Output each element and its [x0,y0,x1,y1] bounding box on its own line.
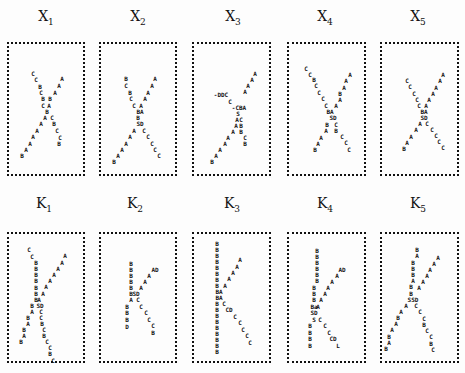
panel-title-k3: K3 [224,195,240,214]
stroke-glyph: C [51,358,55,364]
panel-subscript: 1 [46,204,52,214]
stroke-glyph: A [39,121,43,127]
stroke-glyph: B [210,159,214,165]
stroke-glyph: A [43,115,47,121]
stroke-glyph: B [384,346,388,352]
stroke-glyph: A [324,128,328,134]
stroke-glyph: A [418,121,422,127]
stroke-glyph: L [336,343,340,349]
panel-letter: K [36,195,46,211]
stroke-glyph: C [139,304,143,310]
panel-subscript: 4 [327,204,333,214]
stroke-glyph: A [431,91,435,97]
stroke-glyph: B [19,339,23,345]
stroke-glyph: A [28,141,32,147]
stroke-glyph: A [231,270,235,276]
stroke-glyph: A [52,272,56,278]
stroke-glyph: A [231,129,235,135]
panel-title-k2: K2 [127,195,143,214]
panel-letter: X [410,8,420,24]
stroke-glyph: A [37,297,41,303]
stroke-glyph: A [139,103,143,109]
stroke-glyph: A [243,89,247,95]
stroke-glyph: A [41,291,45,297]
stroke-glyph: A [335,273,339,279]
stroke-glyph: A [26,321,30,327]
stroke-glyph: A [223,283,227,289]
stroke-glyph: A [218,147,222,153]
panel-title-k1: K1 [36,195,52,214]
stroke-glyph: C [248,340,252,346]
stroke-glyph: A [394,321,398,327]
stroke-glyph: A [404,303,408,309]
panel-subscript: 2 [140,17,146,27]
panel-subscript: 2 [137,204,143,214]
stroke-glyph: A [421,279,425,285]
stroke-glyph: A [415,253,419,259]
stroke-glyph: A [438,78,442,84]
stroke-glyph: A [150,83,154,89]
stroke-glyph: A [56,266,60,272]
stroke-glyph: C [132,103,136,109]
stroke-glyph: A [342,85,346,91]
stroke-glyph: A [132,128,136,134]
panel-title-x4: X4 [317,8,333,27]
panel-subscript: 5 [420,17,426,27]
panel-letter: X [225,8,235,24]
stroke-glyph: A [414,127,418,133]
stroke-glyph: A [30,309,34,315]
stroke-glyph: B [57,141,61,147]
stroke-glyph: A [250,77,254,83]
stroke-glyph: A [128,134,132,140]
stroke-glyph: A [60,260,64,266]
panel-letter: X [317,8,327,24]
stroke-glyph: B [20,153,24,159]
stroke-glyph: A [348,72,352,78]
panel-title-k5: K5 [410,195,426,214]
stroke-glyph: B [313,147,317,153]
stroke-glyph: A [120,147,124,153]
dotted-frame-k5 [380,232,459,363]
stroke-glyph: S [312,317,316,323]
panel-title-x5: X5 [410,8,426,27]
stroke-glyph: A [53,90,57,96]
panel-title-x2: X2 [130,8,146,27]
stroke-glyph: A [227,276,231,282]
stroke-glyph: A [338,97,342,103]
dotted-frame-k3 [192,232,271,363]
stroke-glyph: B [112,159,116,165]
stroke-glyph: AD [338,267,345,273]
stroke-glyph: A [316,304,320,310]
stroke-glyph: A [436,255,440,261]
stroke-glyph: B [308,343,312,349]
panel-title-k4: K4 [317,195,333,214]
panel-title-x3: X3 [225,8,241,27]
stroke-glyph: A [214,153,218,159]
panel-subscript: 3 [234,204,240,214]
stroke-glyph: A [223,141,227,147]
stroke-glyph: B [243,141,247,147]
stroke-glyph: A [323,291,327,297]
stroke-glyph: A [57,83,61,89]
stroke-glyph: A [143,279,147,285]
stroke-glyph: A [409,134,413,140]
panel-letter: X [130,8,140,24]
stroke-glyph: A [330,279,334,285]
stroke-glyph: B [151,330,155,336]
stroke-glyph: A [143,96,147,102]
stroke-glyph: A [116,153,120,159]
stroke-glyph: C [347,147,351,153]
stroke-glyph: CD [225,307,232,313]
stroke-glyph: A [424,103,428,109]
panel-title-x1: X1 [38,8,54,27]
stroke-glyph: A [139,285,143,291]
panel-letter: K [317,195,327,211]
stroke-glyph: -DDC [214,92,228,98]
dotted-frame-k4 [287,232,366,363]
panel-subscript: 5 [420,204,426,214]
stroke-glyph: A [425,273,429,279]
stroke-glyph: C [233,314,237,320]
stroke-glyph: B [402,146,406,152]
stroke-glyph: A [24,147,28,153]
stroke-glyph: A [147,273,151,279]
